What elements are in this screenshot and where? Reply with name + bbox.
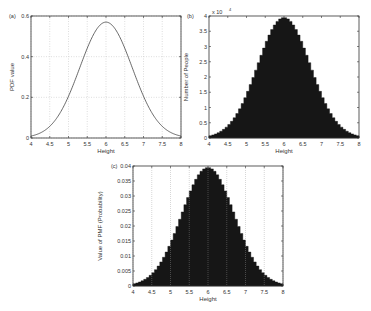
chart-c-pmf: 44.555.566.577.5800.0050.010.0150.020.02… [90, 150, 290, 311]
people-count-histogram: 44.555.566.577.5800.511.522.533.54Height… [178, 0, 371, 155]
y-axis-label: Number of People [183, 52, 189, 101]
x-tick-label: 8 [357, 141, 360, 147]
y-axis-label: PDF value [9, 62, 15, 91]
chart-a-pdf: 44.555.566.577.5800.20.40.6HeightPDF val… [0, 0, 185, 155]
x-tick-label: 4 [29, 141, 32, 147]
y-tick-label: 0.5 [199, 120, 207, 126]
x-tick-label: 5.5 [185, 289, 193, 295]
y-tick-label: 3 [204, 44, 207, 50]
y-tick-label: 0.025 [117, 208, 131, 214]
y-tick-label: 2 [204, 74, 207, 80]
histogram-bars [209, 18, 359, 138]
x-tick-label: 5.5 [83, 141, 91, 147]
panel-tag: (c) [111, 163, 118, 169]
y-tick-label: 0 [204, 135, 207, 141]
x-tick-label: 4 [207, 141, 210, 147]
y-tick-label: 1 [204, 105, 207, 111]
y-tick-label: 0.015 [117, 238, 131, 244]
y-tick-label: 4 [204, 13, 207, 19]
y-tick-label: 0.4 [21, 54, 29, 60]
y-multiplier-label: x 10 [212, 9, 222, 15]
y-tick-label: 1.5 [199, 89, 207, 95]
x-tick-label: 6.5 [299, 141, 307, 147]
x-tick-label: 7 [244, 289, 247, 295]
y-tick-label: 0.2 [21, 94, 29, 100]
pdf-line-chart: 44.555.566.577.5800.20.40.6HeightPDF val… [0, 0, 185, 155]
y-tick-label: 0.04 [120, 163, 131, 169]
x-tick-label: 5 [245, 141, 248, 147]
y-axis-label: Value of PMF (Probability) [97, 191, 103, 261]
panel-tag: (b) [187, 13, 194, 19]
x-tick-label: 6.5 [121, 141, 129, 147]
x-tick-label: 6 [206, 289, 209, 295]
x-tick-label: 7 [320, 141, 323, 147]
x-tick-label: 4 [131, 289, 134, 295]
x-tick-label: 8 [281, 289, 284, 295]
y-tick-label: 0.01 [120, 253, 131, 259]
x-tick-label: 4.5 [224, 141, 232, 147]
x-tick-label: 5 [169, 289, 172, 295]
y-tick-label: 0.6 [21, 13, 29, 19]
y-tick-label: 0.005 [117, 268, 131, 274]
y-tick-label: 2.5 [199, 59, 207, 65]
panel-tag: (a) [9, 13, 16, 19]
y-tick-label: 0 [26, 135, 29, 141]
x-tick-label: 7 [142, 141, 145, 147]
x-axis-label: Height [199, 296, 217, 302]
x-tick-label: 6 [282, 141, 285, 147]
y-tick-label: 0.035 [117, 178, 131, 184]
x-tick-label: 6 [104, 141, 107, 147]
x-tick-label: 4.5 [148, 289, 156, 295]
x-tick-label: 5 [67, 141, 70, 147]
x-tick-label: 7.5 [336, 141, 344, 147]
y-tick-label: 0.03 [120, 193, 131, 199]
chart-b-histogram: 44.555.566.577.5800.511.522.533.54Height… [178, 0, 371, 155]
y-multiplier-exponent: 4 [229, 7, 232, 12]
y-tick-label: 0 [128, 283, 131, 289]
y-tick-label: 0.02 [120, 223, 131, 229]
x-tick-label: 5.5 [261, 141, 269, 147]
x-tick-label: 4.5 [46, 141, 54, 147]
pmf-bar-chart: 44.555.566.577.5800.0050.010.0150.020.02… [90, 150, 290, 311]
x-tick-label: 6.5 [223, 289, 231, 295]
x-tick-label: 7.5 [260, 289, 268, 295]
y-tick-label: 3.5 [199, 28, 207, 34]
x-tick-label: 7.5 [158, 141, 166, 147]
